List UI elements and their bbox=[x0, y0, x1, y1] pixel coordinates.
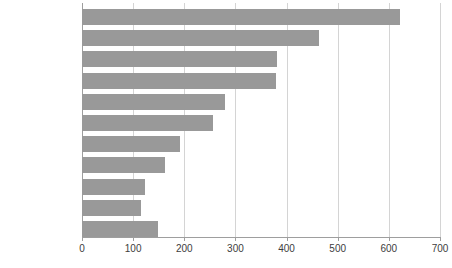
bar bbox=[82, 9, 400, 25]
bar bbox=[82, 200, 141, 216]
bar bbox=[82, 51, 277, 67]
bar bbox=[82, 115, 213, 131]
x-tick-mark bbox=[287, 237, 288, 241]
x-axis-tick-label: 700 bbox=[410, 243, 452, 254]
x-tick-mark bbox=[389, 237, 390, 241]
x-tick-mark bbox=[82, 237, 83, 241]
gridline-500 bbox=[338, 3, 339, 237]
bar bbox=[82, 73, 276, 89]
bar-chart: £1000+£900 to < £1000£800 to < £900£700 … bbox=[0, 0, 452, 268]
x-axis-line bbox=[82, 237, 440, 238]
x-tick-mark bbox=[184, 237, 185, 241]
gridline-700 bbox=[440, 3, 441, 237]
bar bbox=[82, 136, 180, 152]
plot-area bbox=[82, 3, 440, 237]
x-tick-mark bbox=[338, 237, 339, 241]
bar bbox=[82, 179, 145, 195]
gridline-600 bbox=[389, 3, 390, 237]
bar bbox=[82, 221, 158, 237]
bar bbox=[82, 30, 319, 46]
bar bbox=[82, 157, 165, 173]
x-tick-mark bbox=[235, 237, 236, 241]
x-tick-mark bbox=[133, 237, 134, 241]
x-tick-mark bbox=[440, 237, 441, 241]
bar bbox=[82, 94, 225, 110]
